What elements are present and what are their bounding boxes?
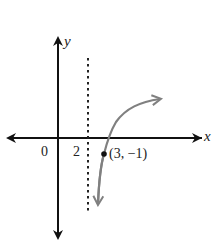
graph: y x 0 2 (3, −1) bbox=[0, 0, 217, 250]
point-label: (3, −1) bbox=[109, 147, 147, 161]
y-axis-label: y bbox=[64, 34, 71, 49]
origin-label: 0 bbox=[41, 145, 48, 159]
point-marker bbox=[101, 151, 107, 157]
x-tick-label-2: 2 bbox=[73, 145, 80, 159]
x-axis-label: x bbox=[204, 129, 211, 144]
graph-canvas bbox=[0, 0, 217, 250]
